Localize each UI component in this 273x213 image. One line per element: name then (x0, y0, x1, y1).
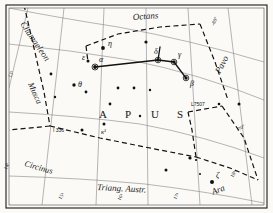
star-delta (156, 58, 159, 61)
star-field-7 (109, 103, 112, 106)
label-octans: Octans (132, 10, 159, 22)
label-i336: I 336 (53, 127, 64, 133)
star-field-14 (54, 96, 56, 98)
label-l7507: L7507 (191, 101, 205, 107)
star-eta (101, 46, 105, 50)
star-field-10 (188, 156, 191, 159)
star-field-3 (85, 91, 88, 94)
star-gamma (172, 60, 175, 63)
chart-background (0, 0, 273, 213)
star-chart-apus: η ε α δ γ β θ κ¹ ζ I 336 L7507 A P U S C… (0, 0, 273, 213)
star-field-6 (149, 89, 151, 91)
star-field-12 (199, 173, 201, 175)
apus-letter-p: P (125, 108, 132, 120)
star-theta (72, 83, 75, 86)
apus-letter-a: A (99, 108, 107, 120)
star-alpha (93, 65, 97, 69)
star-field-8 (139, 115, 141, 117)
star-field-13 (238, 103, 241, 106)
star-field-4 (117, 87, 120, 90)
star-field-11 (195, 159, 197, 161)
star-kappa1 (103, 123, 106, 126)
star-l7507 (218, 103, 221, 106)
label-kappa1: κ¹ (101, 128, 106, 135)
label-beta: β (189, 79, 194, 88)
star-chart-canvas: η ε α δ γ β θ κ¹ ζ I 336 L7507 A P U S C… (0, 0, 273, 213)
star-beta (184, 76, 187, 79)
label-theta: θ (78, 80, 82, 89)
label-eta: η (108, 39, 112, 48)
star-field-5 (133, 87, 136, 90)
star-epsilon (87, 60, 90, 63)
apus-letter-u: U (151, 108, 159, 120)
label-delta: δ (154, 47, 158, 56)
star-field-1 (50, 73, 53, 76)
star-field-9 (165, 169, 168, 172)
star-i336 (81, 129, 84, 132)
apus-letter-s: S (177, 108, 184, 120)
star-zeta (210, 180, 214, 184)
star-field-2 (144, 40, 147, 43)
